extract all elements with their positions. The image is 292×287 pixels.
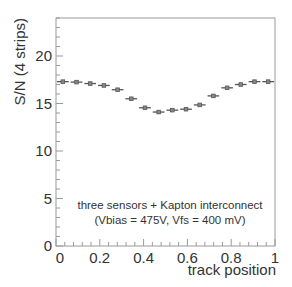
data-point — [57, 80, 69, 84]
y-axis-title: S/N (4 strips) — [11, 18, 28, 106]
data-point — [98, 84, 110, 88]
plot-svg: 05101520 00.20.40.60.81 track position S… — [0, 0, 292, 287]
y-tick-label: 15 — [35, 95, 52, 112]
y-tick-label: 0 — [44, 237, 52, 254]
data-point — [125, 97, 137, 101]
data-point — [194, 103, 206, 107]
x-tick-label: 0 — [56, 249, 64, 266]
annotation-bias: (Vbias = 475V, Vfs = 400 mV) — [94, 214, 245, 226]
plot-frame — [56, 18, 275, 246]
data-point — [208, 94, 220, 98]
y-tick-label: 5 — [44, 190, 52, 207]
data-point — [221, 86, 233, 90]
data-point — [262, 80, 274, 84]
data-point — [235, 83, 247, 87]
data-point — [180, 107, 192, 111]
data-point — [112, 88, 124, 92]
data-point — [167, 108, 179, 112]
data-point — [71, 80, 83, 84]
data-point — [249, 80, 261, 84]
data-points — [57, 80, 274, 114]
y-tick-label: 20 — [35, 47, 52, 64]
x-tick-label: 0.2 — [89, 249, 110, 266]
annotation-setup: three sensors + Kapton interconnect — [77, 199, 263, 211]
x-tick-label: 0.4 — [133, 249, 154, 266]
chart-container: 05101520 00.20.40.60.81 track position S… — [0, 0, 292, 287]
x-axis-title: track position — [188, 261, 276, 278]
y-tick-label: 10 — [35, 142, 52, 159]
data-point — [139, 106, 151, 110]
data-point — [84, 82, 96, 86]
y-axis-ticks: 05101520 — [35, 18, 63, 254]
data-point — [153, 110, 165, 114]
